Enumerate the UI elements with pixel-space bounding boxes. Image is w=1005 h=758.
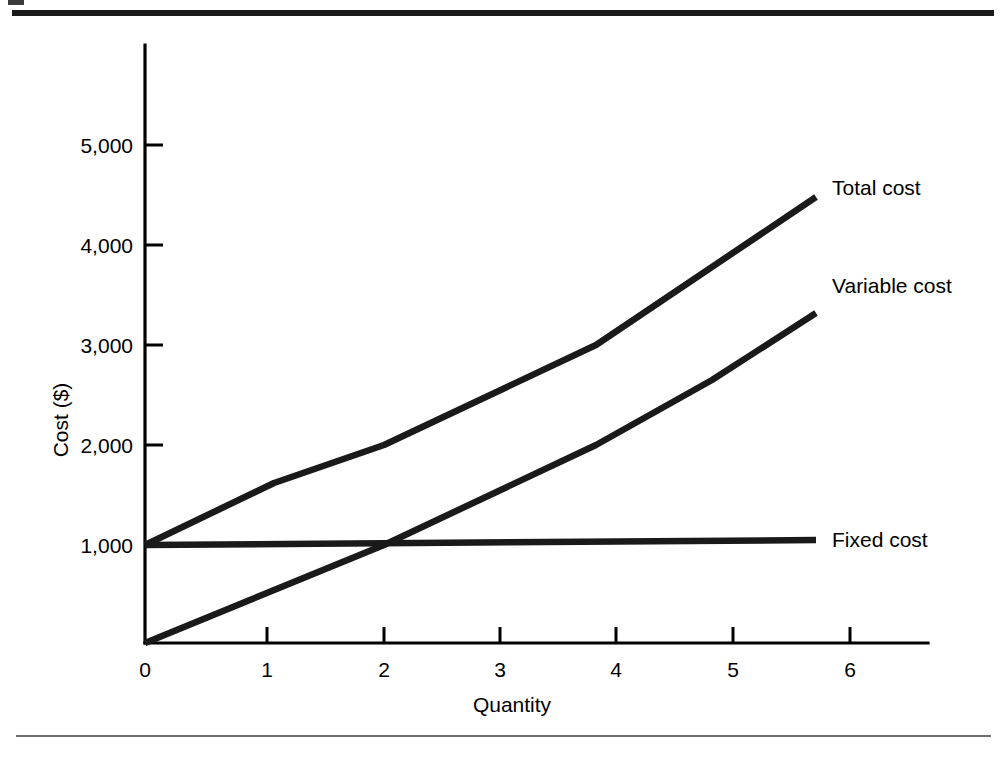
- x-tick-label-2: 2: [378, 658, 390, 681]
- x-axis-title: Quantity: [473, 693, 552, 716]
- x-tick-label-3: 3: [494, 658, 506, 681]
- y-tick-label-1000: 1,000: [80, 534, 133, 557]
- x-axis-tick-labels: 0 1 2 3 4 5 6: [139, 658, 856, 681]
- y-axis-title: Cost ($): [49, 383, 72, 458]
- x-tick-label-6: 6: [844, 658, 856, 681]
- x-tick-label-1: 1: [261, 658, 273, 681]
- x-tick-label-4: 4: [610, 658, 622, 681]
- series-line-fixed-cost: [145, 540, 816, 545]
- y-axis-ticks: [145, 145, 163, 545]
- y-tick-label-5000: 5,000: [80, 134, 133, 157]
- figure-container: 1,000 2,000 3,000 4,000 5,000 0 1 2 3 4 …: [0, 0, 1005, 758]
- series-labels-group: Total cost Variable cost Fixed cost: [832, 176, 952, 551]
- series-line-variable-cost: [145, 313, 816, 643]
- y-tick-label-3000: 3,000: [80, 334, 133, 357]
- x-axis-ticks: [267, 627, 850, 643]
- axes-group: [145, 45, 928, 643]
- cost-curves-chart: 1,000 2,000 3,000 4,000 5,000 0 1 2 3 4 …: [0, 0, 1005, 758]
- x-tick-label-0: 0: [139, 658, 151, 681]
- series-label-fixed-cost: Fixed cost: [832, 528, 928, 551]
- y-tick-label-4000: 4,000: [80, 234, 133, 257]
- series-line-total-cost: [145, 197, 816, 545]
- x-tick-label-5: 5: [727, 658, 739, 681]
- y-tick-label-2000: 2,000: [80, 434, 133, 457]
- y-axis-tick-labels: 1,000 2,000 3,000 4,000 5,000: [80, 134, 133, 557]
- data-series-group: [145, 197, 816, 643]
- series-label-total-cost: Total cost: [832, 176, 921, 199]
- series-label-variable-cost: Variable cost: [832, 274, 952, 297]
